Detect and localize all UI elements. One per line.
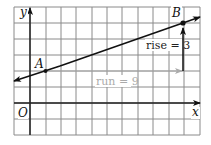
coordinate-plane: A B rise = 3 run = 9 O x y <box>0 0 211 145</box>
slope-diagram: A B rise = 3 run = 9 O x y <box>0 0 211 145</box>
run-label: run = 9 <box>96 75 139 88</box>
y-axis-label: y <box>19 5 27 19</box>
rise-label: rise = 3 <box>146 39 190 52</box>
origin-label: O <box>18 106 28 120</box>
point-b-label: B <box>171 6 181 20</box>
point-b <box>180 20 185 25</box>
point-a-label: A <box>34 57 44 71</box>
point-a <box>44 69 48 73</box>
x-axis-label: x <box>192 105 199 119</box>
